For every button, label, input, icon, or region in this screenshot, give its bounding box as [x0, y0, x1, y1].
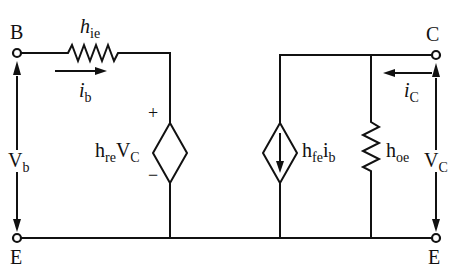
terminal-e-right [432, 234, 440, 242]
hfe-ib-label: hfeib [302, 140, 335, 165]
terminal-label-c: C [426, 24, 439, 44]
vc-label: VC [424, 150, 448, 175]
hoe-label: hoe [386, 140, 409, 165]
circuit-wires [0, 0, 451, 270]
vb-label: Vb [8, 150, 29, 175]
hoe-resistor [363, 55, 379, 238]
ic-arrowhead [383, 69, 395, 77]
current-source-arrowhead [276, 161, 284, 173]
terminal-b [13, 49, 21, 57]
vc-arrowhead-down [432, 219, 440, 232]
terminal-label-e-right: E [428, 247, 440, 267]
vb-arrowhead-up [13, 61, 21, 75]
terminal-c [432, 51, 440, 59]
vc-arrowhead-up [432, 63, 440, 77]
h-parameter-circuit: B E C E hie ib Vb hreVC + − hfeib hoe iC… [0, 0, 451, 270]
ib-arrowhead [95, 67, 107, 75]
minus-sign: − [148, 166, 158, 184]
vb-arrowhead-down [13, 219, 21, 232]
terminal-label-e-left: E [10, 247, 22, 267]
terminal-label-b: B [10, 22, 23, 42]
ic-label: iC [404, 80, 419, 105]
plus-sign: + [148, 104, 158, 122]
hie-label: hie [80, 16, 100, 41]
ib-label: ib [79, 80, 92, 105]
terminal-e-left [13, 234, 21, 242]
hre-vc-label: hreVC [95, 140, 140, 165]
